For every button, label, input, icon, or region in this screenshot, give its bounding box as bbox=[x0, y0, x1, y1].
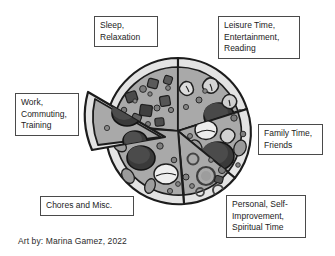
pizza-diagram-canvas: Sleep, Relaxation Leisure Time, Entertai… bbox=[0, 0, 335, 256]
artist-credit: Art by: Marina Gamez, 2022 bbox=[18, 236, 127, 246]
label-leisure-time: Leisure Time, Entertainment, Reading bbox=[218, 16, 300, 59]
label-personal-self-improvement: Personal, Self- Improvement, Spiritual T… bbox=[226, 195, 306, 238]
label-family-time: Family Time, Friends bbox=[258, 124, 323, 155]
label-chores-and-misc: Chores and Misc. bbox=[40, 196, 134, 216]
label-work-commuting: Work, Commuting, Training bbox=[15, 93, 79, 136]
label-sleep-relaxation: Sleep, Relaxation bbox=[94, 16, 158, 47]
